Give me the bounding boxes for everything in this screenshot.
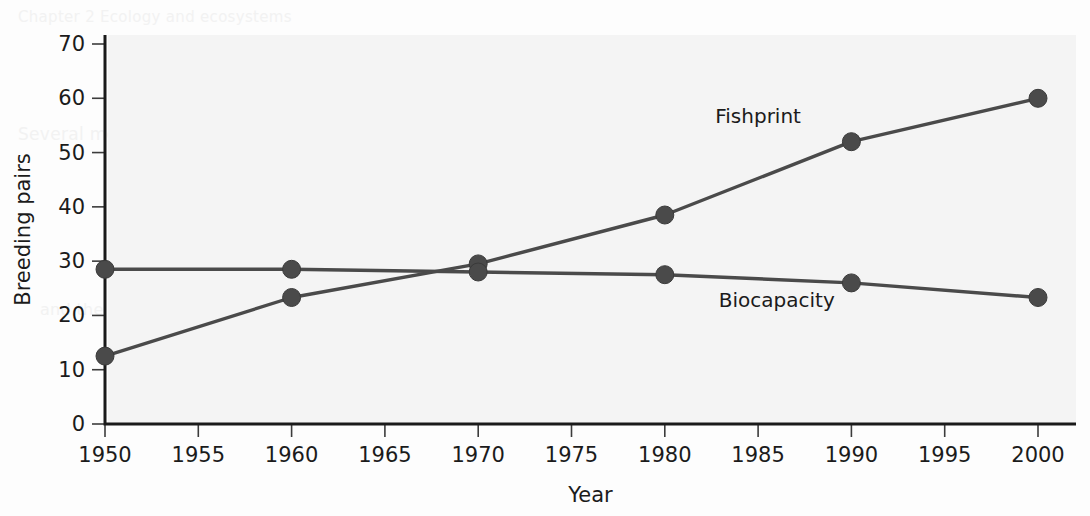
x-axis-title: Year: [567, 483, 613, 507]
y-tick-label: 70: [58, 32, 85, 56]
data-point-marker: [656, 266, 674, 284]
x-tick-label: 1965: [358, 443, 411, 467]
y-tick-label: 30: [58, 249, 85, 273]
x-tick-label: 1985: [731, 443, 784, 467]
data-point-marker: [283, 289, 301, 307]
data-point-marker: [656, 206, 674, 224]
x-tick-label: 1960: [265, 443, 318, 467]
data-point-marker: [469, 263, 487, 281]
data-point-marker: [96, 260, 114, 278]
y-axis-title: Breeding pairs: [11, 153, 35, 306]
figure-container: Chapter 2 Ecology and ecosystemspopulati…: [0, 0, 1090, 516]
x-tick-label: 1950: [78, 443, 131, 467]
x-tick-label: 2000: [1011, 443, 1064, 467]
data-point-marker: [283, 260, 301, 278]
x-tick-label: 1955: [172, 443, 225, 467]
data-point-marker: [96, 347, 114, 365]
data-point-marker: [1029, 89, 1047, 107]
data-point-marker: [842, 133, 860, 151]
x-axis-ticks: [105, 424, 1038, 437]
plot-background: [108, 35, 1076, 424]
y-tick-label: 0: [72, 412, 85, 436]
x-tick-label: 1990: [825, 443, 878, 467]
series-label-fishprint: Fishprint: [715, 104, 801, 128]
data-point-marker: [1029, 289, 1047, 307]
x-axis-tick-labels: 1950195519601965197019751980198519901995…: [78, 443, 1064, 467]
data-point-marker: [842, 274, 860, 292]
y-axis-ticks: [92, 44, 105, 424]
series-label-biocapacity: Biocapacity: [719, 288, 835, 312]
y-tick-label: 20: [58, 303, 85, 327]
y-tick-label: 10: [58, 358, 85, 382]
y-tick-label: 60: [58, 86, 85, 110]
y-tick-label: 40: [58, 195, 85, 219]
x-tick-label: 1995: [918, 443, 971, 467]
x-tick-label: 1975: [545, 443, 598, 467]
x-tick-label: 1970: [451, 443, 504, 467]
x-tick-label: 1980: [638, 443, 691, 467]
y-tick-label: 50: [58, 141, 85, 165]
line-chart: 010203040506070 195019551960196519701975…: [0, 0, 1090, 516]
y-axis-tick-labels: 010203040506070: [58, 32, 85, 436]
